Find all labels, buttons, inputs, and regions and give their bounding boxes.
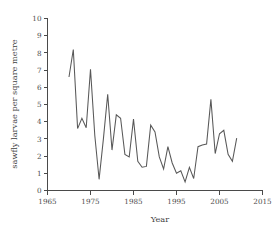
y-tick-label-0: 0 xyxy=(37,186,42,195)
y-tick-label-1: 1 xyxy=(37,169,42,178)
x-axis-tick-marks xyxy=(48,191,263,195)
y-tick-label-8: 8 xyxy=(37,49,42,58)
y-tick-label-3: 3 xyxy=(37,135,42,144)
y-tick-label-9: 9 xyxy=(37,31,42,40)
x-tick-label-1985: 1985 xyxy=(124,197,143,206)
y-tick-label-10: 10 xyxy=(32,14,42,23)
series-line-sawfly-larvae-density xyxy=(69,49,237,181)
x-axis-tick-labels: 196519751985199520052015 xyxy=(38,197,272,206)
sawfly-larvae-line-chart: 012345678910 196519751985199520052015 sa… xyxy=(0,0,279,235)
y-axis-tick-labels: 012345678910 xyxy=(32,14,42,195)
y-tick-label-6: 6 xyxy=(37,83,42,92)
chart-axes xyxy=(48,19,263,191)
x-tick-label-1995: 1995 xyxy=(167,197,186,206)
x-tick-label-1975: 1975 xyxy=(81,197,100,206)
x-tick-label-1965: 1965 xyxy=(38,197,57,206)
x-tick-label-2005: 2005 xyxy=(210,197,229,206)
y-tick-label-4: 4 xyxy=(37,117,42,126)
x-axis-title: Year xyxy=(150,214,169,224)
y-tick-label-2: 2 xyxy=(37,152,42,161)
y-tick-label-7: 7 xyxy=(37,66,42,75)
chart-plot-area: 012345678910 196519751985199520052015 sa… xyxy=(0,0,279,235)
x-tick-label-2015: 2015 xyxy=(253,197,272,206)
y-axis-title: sawfly larvae per square metre xyxy=(9,39,19,169)
data-series-group xyxy=(69,49,237,181)
y-tick-label-5: 5 xyxy=(37,100,42,109)
